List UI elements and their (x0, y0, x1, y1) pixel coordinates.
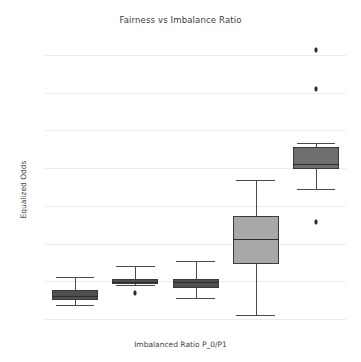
box (293, 147, 339, 170)
chart-title: Fairness vs Imbalance Ratio (0, 15, 361, 25)
plot-area: 0.00.10.20.30.40.50.60.7 40/6030/7020/80… (45, 38, 346, 321)
gridline (45, 55, 346, 56)
whisker-cap-upper (56, 277, 95, 278)
whisker-cap-lower (176, 298, 215, 299)
whisker-cap-upper (176, 261, 215, 262)
x-axis-label: Imbalanced Ratio P_0/P1 (0, 340, 361, 349)
whisker-cap-lower (56, 305, 95, 306)
gridline (45, 244, 346, 245)
whisker-cap-upper (236, 180, 275, 181)
gridline (45, 93, 346, 94)
outlier-marker (314, 48, 317, 53)
whisker-cap-lower (297, 189, 336, 190)
median-line (233, 239, 279, 240)
gridline (45, 206, 346, 207)
whisker-cap-lower (236, 315, 275, 316)
gridline (45, 130, 346, 131)
outlier-marker (134, 291, 137, 296)
whisker-lower (196, 288, 197, 297)
whisker-lower (256, 264, 257, 315)
whisker-upper (196, 261, 197, 279)
whisker-lower (316, 169, 317, 189)
whisker-cap-lower (116, 285, 155, 286)
whisker-cap-upper (116, 266, 155, 267)
whisker-upper (75, 277, 76, 291)
whisker-upper (256, 180, 257, 216)
gridline (45, 319, 346, 320)
outlier-marker (314, 219, 317, 224)
median-line (293, 164, 339, 165)
boxplot-figure: Fairness vs Imbalance Ratio Equalized Od… (0, 0, 361, 362)
y-axis-label: Equalized Odds (19, 120, 28, 260)
outlier-marker (314, 86, 317, 91)
box (173, 279, 219, 288)
whisker-cap-upper (297, 143, 336, 144)
whisker-upper (135, 266, 136, 279)
median-line (52, 296, 98, 297)
median-line (112, 282, 158, 283)
median-line (173, 282, 219, 283)
